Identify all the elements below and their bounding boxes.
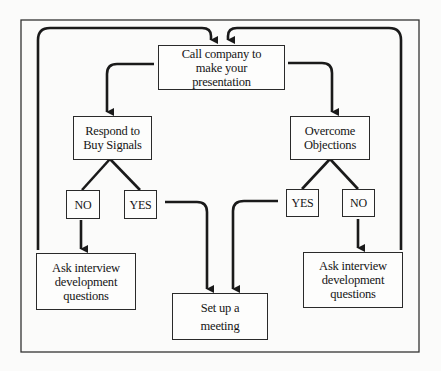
node-respond-no-label: NO [75, 198, 92, 212]
node-respond-buy-signals: Respond to Buy Signals [73, 116, 152, 160]
node-overcome-no: NO [342, 189, 375, 217]
node-respond-yes-label: YES [129, 198, 151, 212]
edge-respond-to-no [82, 159, 110, 190]
node-overcome-objections-label: Overcome Objections [298, 124, 362, 152]
edge-overcome-yes-to-meeting [233, 201, 278, 289]
node-overcome-no-label: NO [350, 196, 367, 210]
node-set-up-meeting-label: Set up a meeting [195, 299, 245, 335]
node-ask-questions-left: Ask interview development questions [36, 253, 136, 310]
node-respond-buy-signals-label: Respond to Buy Signals [77, 124, 149, 152]
node-overcome-objections: Overcome Objections [290, 116, 370, 160]
node-set-up-meeting: Set up a meeting [172, 293, 268, 340]
edge-overcome-to-yes [302, 159, 330, 189]
node-ask-questions-left-label: Ask interview development questions [50, 261, 122, 303]
node-overcome-yes-label: YES [291, 196, 313, 210]
node-ask-questions-right: Ask interview development questions [303, 252, 403, 308]
edge-respond-yes-to-meeting [165, 202, 207, 289]
edge-call-to-overcome [288, 63, 332, 112]
edge-respond-to-yes [110, 159, 140, 190]
node-call-company: Call company to make your presentation [158, 45, 285, 90]
node-call-company-label: Call company to make your presentation [172, 47, 272, 89]
edge-overcome-to-no [330, 159, 358, 189]
node-ask-questions-right-label: Ask interview development questions [317, 259, 389, 301]
node-respond-yes: YES [124, 190, 157, 219]
edge-call-to-respond [107, 64, 154, 112]
node-respond-no: NO [66, 190, 100, 219]
node-overcome-yes: YES [286, 189, 319, 217]
